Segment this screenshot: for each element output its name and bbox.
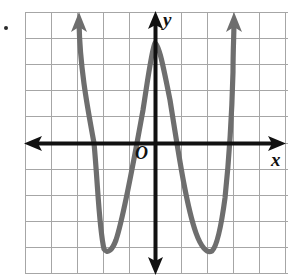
coordinate-graph-figure: y x O (0, 0, 288, 277)
y-axis-label: y (163, 10, 171, 29)
x-axis-label: x (271, 150, 281, 169)
graph-svg (0, 0, 288, 277)
origin-label: O (135, 144, 148, 162)
